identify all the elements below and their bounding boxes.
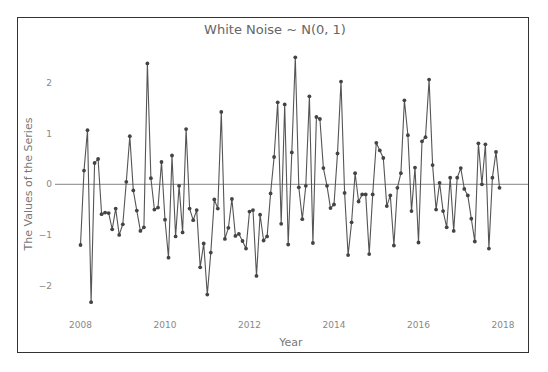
data-point xyxy=(96,157,100,161)
data-point xyxy=(205,293,209,297)
data-point xyxy=(406,133,410,137)
data-point xyxy=(427,78,431,82)
x-tick-label: 2016 xyxy=(407,320,430,330)
data-point xyxy=(403,98,407,102)
data-point xyxy=(286,243,290,247)
data-point xyxy=(445,225,449,229)
data-point xyxy=(385,204,389,208)
data-point xyxy=(491,176,495,180)
data-point xyxy=(121,222,125,226)
data-point xyxy=(459,166,463,170)
data-point xyxy=(290,151,294,155)
data-point xyxy=(174,235,178,239)
data-point xyxy=(300,217,304,221)
data-point xyxy=(293,55,297,59)
x-tick-label: 2008 xyxy=(69,320,92,330)
data-point xyxy=(339,80,343,84)
data-point xyxy=(167,256,171,260)
data-point xyxy=(223,237,227,241)
data-point xyxy=(469,217,473,221)
data-point xyxy=(410,209,414,213)
data-point xyxy=(251,208,255,212)
y-tick-label: −2 xyxy=(39,281,52,291)
y-tick-label: 2 xyxy=(46,78,52,88)
data-point xyxy=(241,239,245,243)
data-point xyxy=(424,135,428,139)
x-tick-label: 2018 xyxy=(492,320,515,330)
data-point xyxy=(248,210,252,214)
data-point xyxy=(304,184,308,188)
data-point xyxy=(82,169,86,173)
data-point xyxy=(276,100,280,104)
y-tick-label: 1 xyxy=(46,129,52,139)
data-point xyxy=(466,194,470,198)
data-point xyxy=(448,176,452,180)
data-point xyxy=(255,274,259,278)
data-point xyxy=(413,166,417,170)
data-point xyxy=(315,115,319,119)
data-point xyxy=(79,243,83,247)
data-point xyxy=(153,208,157,212)
data-point xyxy=(103,211,107,215)
data-point xyxy=(195,208,199,212)
x-tick-label: 2014 xyxy=(323,320,346,330)
data-point xyxy=(336,152,340,156)
data-point xyxy=(202,242,206,246)
data-point xyxy=(142,225,146,229)
data-point xyxy=(417,241,421,245)
data-point xyxy=(170,154,174,158)
data-point xyxy=(188,207,192,211)
data-point xyxy=(93,161,97,165)
y-tick-label: 0 xyxy=(46,179,52,189)
data-point xyxy=(388,194,392,198)
data-point xyxy=(325,184,329,188)
data-point xyxy=(86,128,90,132)
data-point xyxy=(438,181,442,185)
data-point xyxy=(399,171,403,175)
data-point xyxy=(279,222,283,226)
data-point xyxy=(473,240,477,244)
data-point xyxy=(230,197,234,201)
data-point xyxy=(198,265,202,269)
data-point xyxy=(322,166,326,170)
data-point xyxy=(311,241,315,245)
data-point xyxy=(484,142,488,146)
data-point xyxy=(374,141,378,145)
data-point xyxy=(262,239,266,243)
chart-title: White Noise ~ N(0, 1) xyxy=(204,22,346,37)
data-point xyxy=(163,218,167,222)
data-point xyxy=(357,200,361,204)
data-point xyxy=(434,208,438,212)
y-tick-label: −1 xyxy=(39,230,52,240)
series-markers xyxy=(79,55,502,304)
data-point xyxy=(209,251,213,255)
data-point xyxy=(89,300,93,304)
data-point xyxy=(318,117,322,121)
data-point xyxy=(135,209,139,213)
data-point xyxy=(480,182,484,186)
data-point xyxy=(131,189,135,193)
data-point xyxy=(237,232,241,236)
x-tick-label: 2012 xyxy=(238,320,261,330)
data-point xyxy=(181,231,185,235)
data-point xyxy=(353,171,357,175)
data-point xyxy=(177,184,181,188)
y-axis-ticks: −2−1012 xyxy=(39,78,53,290)
data-point xyxy=(364,193,368,197)
data-point xyxy=(160,160,164,164)
data-point xyxy=(100,212,104,216)
data-point xyxy=(343,191,347,195)
data-point xyxy=(283,103,287,107)
data-point xyxy=(146,62,150,66)
data-point xyxy=(420,139,424,143)
data-point xyxy=(346,253,350,257)
data-point xyxy=(452,229,456,233)
data-point xyxy=(367,252,371,256)
data-point xyxy=(477,141,481,145)
data-point xyxy=(308,94,312,98)
data-point xyxy=(360,193,364,197)
data-point xyxy=(396,186,400,190)
data-point xyxy=(139,229,143,233)
data-point xyxy=(332,203,336,207)
data-point xyxy=(487,247,491,251)
